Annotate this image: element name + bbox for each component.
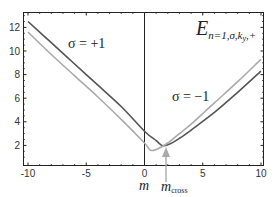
y-tick-label: 10	[9, 46, 21, 57]
chart-title: En=1,σ,ky,+	[195, 17, 256, 43]
y-tick-label: 4	[14, 116, 20, 127]
y-tick-label: 6	[14, 93, 20, 104]
x-tick-label: 5	[200, 168, 206, 179]
y-tick-label: 12	[9, 22, 21, 33]
x-tick-label: 10	[255, 168, 267, 179]
mcross-label: mcross	[161, 179, 188, 195]
sigma-plus-label: σ = +1	[68, 36, 105, 51]
y-tick-label: 8	[14, 69, 20, 80]
sigma-minus-label: σ = −1	[172, 89, 209, 104]
x-tick-label: -10	[21, 168, 36, 179]
mcross-arrow-icon	[162, 147, 170, 157]
chart: -10-5051024681012 σ = +1 σ = −1 En=1,σ,k…	[0, 0, 277, 197]
x-tick-label: -5	[82, 168, 91, 179]
x-axis-label: m	[139, 178, 149, 193]
y-tick-label: 2	[14, 140, 20, 151]
